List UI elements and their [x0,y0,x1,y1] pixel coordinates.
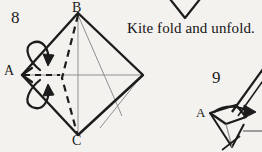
vertex-label-c: C [72,133,81,149]
step-number-9: 9 [212,68,221,88]
chevron-above-caption-icon [166,0,204,18]
fold-arrow-upper-head [43,54,54,66]
dashed-fold-line-b-to-c [62,15,78,133]
step9-lower-edge [222,136,240,150]
instruction-caption: Kite fold and unfold. [127,20,255,37]
step-8-figure [22,13,143,135]
vertex-label-b: B [72,0,81,16]
origami-instruction-page: 8 B C A Kite fold and unfold. 9 A [0,0,262,152]
step9-fold-arrow-head [244,105,256,118]
step-number-8: 8 [11,8,20,28]
fold-arrow-lower-head [43,84,54,96]
vertex-label-a-step9: A [196,105,205,121]
vertex-label-a: A [4,63,14,79]
